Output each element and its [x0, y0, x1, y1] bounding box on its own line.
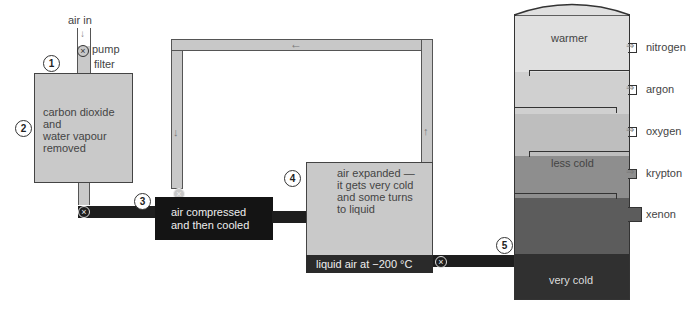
argon-label: argon [646, 83, 674, 95]
arrow-right-icon: ⇒ [626, 166, 634, 177]
tray [515, 107, 617, 113]
recycle-pipe-right [421, 39, 433, 163]
down-arrow-icon: ↓ [80, 28, 85, 39]
tank-text-3: water vapour [43, 130, 124, 142]
stage-3-badge: 3 [134, 193, 151, 210]
valve-icon: × [435, 256, 447, 268]
flow-arrow-up-icon: ↑ [423, 125, 429, 137]
tank-text-1: carbon dioxide [43, 106, 124, 118]
stage-5-badge: 5 [496, 237, 513, 254]
outlet-xenon [628, 207, 642, 222]
pump-label: pump [92, 43, 120, 55]
stage-2-badge: 2 [15, 120, 32, 137]
layer-xenon [515, 198, 629, 254]
compressor-text-2: and then cooled [171, 219, 273, 232]
flow-arrow-left-icon: ← [290, 37, 302, 51]
expander-text-2: it gets very cold [337, 179, 432, 191]
air-in-label: air in [68, 14, 92, 26]
oxygen-label: oxygen [646, 125, 681, 137]
stage-4-badge: 4 [284, 170, 301, 187]
tray [529, 70, 630, 76]
layer-oxygen [515, 114, 629, 156]
pump-valve-icon: × [77, 45, 89, 57]
recycle-pipe-left [171, 39, 183, 189]
krypton-label: krypton [646, 167, 682, 179]
less-cold-label: less cold [551, 157, 594, 169]
tank-outlet-pipe [78, 183, 90, 205]
compressor-box: air compressed and then cooled [155, 197, 273, 240]
arrow-right-icon: ⇒ [626, 40, 634, 51]
expander-text-4: to liquid [337, 203, 432, 215]
xenon-label: xenon [646, 208, 676, 220]
warmer-label: warmer [551, 32, 588, 44]
liquid-air-bar: liquid air at −200 °C [306, 255, 433, 273]
recycle-pipe-top [171, 39, 433, 51]
tank-text-2: and [43, 118, 124, 130]
compressor-text-1: air compressed [171, 206, 273, 219]
tray [515, 193, 617, 199]
flow-arrow-down-icon: ↓ [173, 126, 179, 138]
purification-tank: carbon dioxide and water vapour removed [34, 73, 133, 183]
tray [529, 151, 630, 157]
column-dome [514, 2, 630, 16]
expander-text-3: and some turns [337, 191, 432, 203]
tank-text-4: removed [43, 142, 124, 154]
nitrogen-label: nitrogen [646, 41, 686, 53]
fractionating-column: warmer less cold very cold [514, 14, 630, 300]
stage-1-badge: 1 [43, 55, 60, 72]
arrow-right-icon: ⇒ [626, 82, 634, 93]
valve-icon: × [78, 206, 90, 218]
expander-text-1: air expanded — [337, 167, 432, 179]
arrow-right-icon: ⇒ [626, 124, 634, 135]
very-cold-label: very cold [549, 274, 593, 286]
filter-label: filter [94, 58, 115, 70]
